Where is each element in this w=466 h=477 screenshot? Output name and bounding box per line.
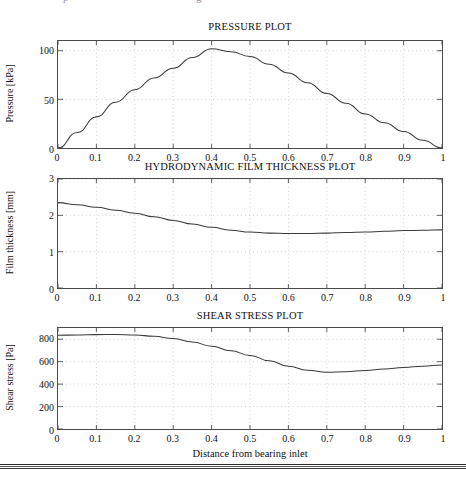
y-tick-label: 1 — [49, 247, 54, 258]
y-tick-label: 400 — [39, 379, 54, 390]
x-tick-label: 0.2 — [128, 433, 141, 444]
x-tick-label: 0.7 — [321, 433, 334, 444]
x-tick-label: 1 — [441, 433, 446, 444]
x-tick-label: 0.5 — [244, 433, 257, 444]
x-tick-label: 0.8 — [360, 292, 373, 303]
y-tick-label: 600 — [39, 356, 54, 367]
x-tick-label: 0.4 — [205, 433, 218, 444]
y-tick-label: 2 — [49, 210, 54, 221]
x-tick-label: 0.9 — [398, 433, 411, 444]
x-tick-label: 0 — [55, 292, 60, 303]
y-tick-label: 100 — [39, 44, 54, 55]
footer-rule-top — [0, 464, 466, 465]
footer-rule-bottom — [0, 468, 466, 469]
x-tick-label: 1 — [441, 292, 446, 303]
y-tick-label: 0 — [49, 144, 54, 155]
x-tick-label: 0.6 — [282, 433, 295, 444]
footer-rule-mid — [0, 466, 466, 467]
y-tick-label: 800 — [39, 333, 54, 344]
plot-area-3 — [57, 327, 443, 430]
x-tick-label: 0.1 — [89, 292, 102, 303]
y-tick-label: 0 — [49, 425, 54, 436]
y-axis-label-3: Shear stress [Pa] — [4, 306, 15, 449]
x-tick-label: 0.3 — [167, 433, 180, 444]
x-tick-label: 0.4 — [205, 292, 218, 303]
y-tick-label: 0 — [49, 284, 54, 295]
panel-title-1: PRESSURE PLOT — [57, 21, 443, 32]
x-tick-label: 0.2 — [128, 292, 141, 303]
plot-area-1 — [57, 40, 443, 149]
figure-page: p g PRESSURE PLOT050100Pressure [kPa]00.… — [0, 0, 466, 477]
x-tick-label: 0.9 — [398, 292, 411, 303]
x-tick-label: 0.3 — [167, 292, 180, 303]
y-axis-label-1: Pressure [kPa] — [4, 19, 15, 168]
three-panel-figure: PRESSURE PLOT050100Pressure [kPa]00.10.2… — [0, 0, 466, 460]
x-tick-label: 0.6 — [282, 292, 295, 303]
x-tick-label: 0.5 — [244, 292, 257, 303]
x-tick-label: 0.8 — [360, 433, 373, 444]
y-tick-label: 50 — [44, 94, 54, 105]
x-tick-label: 0 — [55, 433, 60, 444]
y-tick-label: 3 — [49, 173, 54, 184]
y-axis-label-2: Film thickness [mm] — [4, 157, 15, 308]
x-tick-label: 0.1 — [89, 433, 102, 444]
plot-area-2 — [57, 178, 443, 289]
y-tick-label: 200 — [39, 402, 54, 413]
panel-title-3: SHEAR STRESS PLOT — [57, 310, 443, 321]
panel-title-2: HYDRODYNAMIC FILM THICKNESS PLOT — [57, 161, 443, 172]
x-tick-label: 0.7 — [321, 292, 334, 303]
x-axis-label: Distance from bearing inlet — [57, 448, 443, 459]
